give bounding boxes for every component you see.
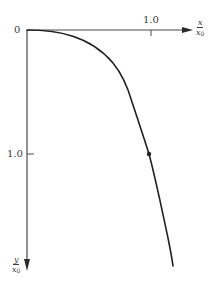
curve-marked-point — [147, 152, 151, 156]
x-axis-label-denominator: x0 — [196, 28, 204, 38]
y-axis-tick-label: 1.0 — [7, 149, 23, 159]
plot-curve — [27, 30, 173, 266]
y-axis-arrowhead-icon — [24, 259, 30, 271]
diagram-canvas — [0, 0, 217, 286]
x-axis-arrowhead-icon — [182, 27, 193, 33]
x-axis-tick-label: 1.0 — [143, 15, 159, 25]
y-axis-label-denominator: x0 — [12, 265, 20, 275]
origin-label: 0 — [14, 25, 20, 35]
x-axis-label-numerator: x — [197, 19, 204, 28]
y-axis-label: y x0 — [12, 256, 20, 275]
y-axis-label-numerator: y — [13, 256, 20, 265]
x-axis-label: x x0 — [196, 19, 204, 38]
